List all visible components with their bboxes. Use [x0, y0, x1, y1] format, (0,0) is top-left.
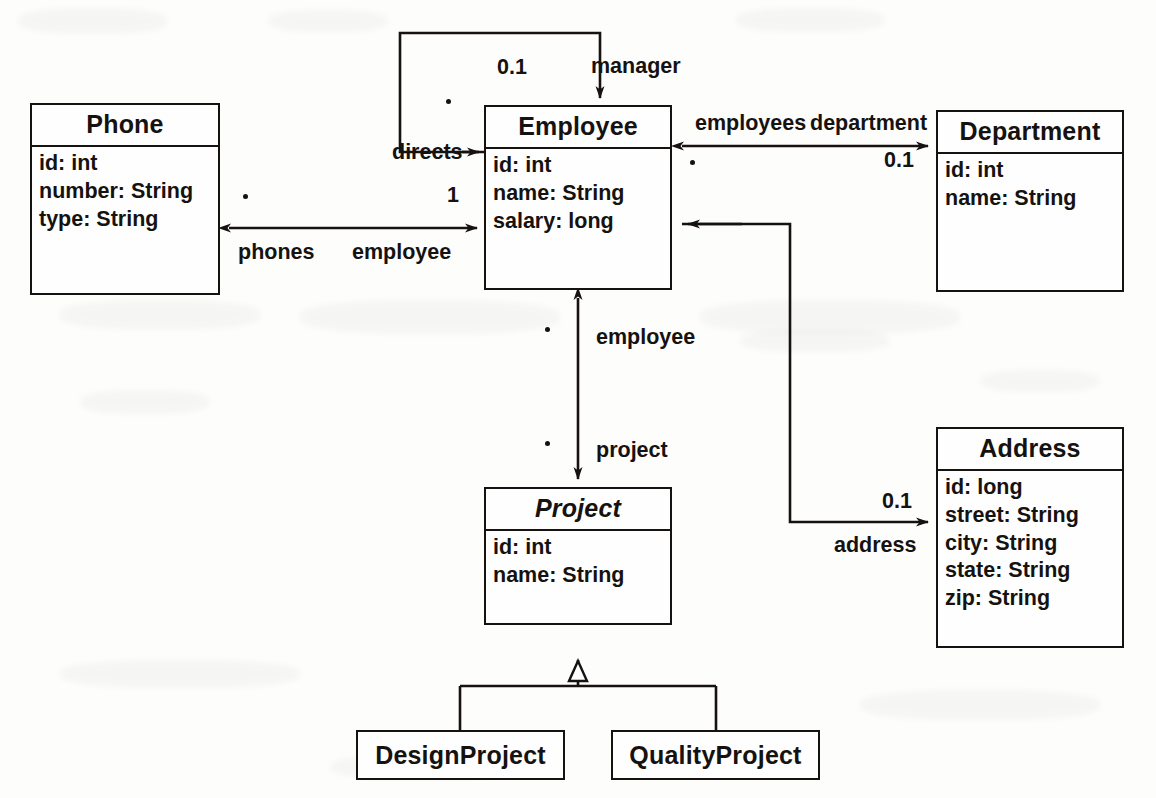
attribute: street: String: [945, 502, 1122, 530]
class-name-address: Address: [938, 429, 1122, 469]
attribute: id: long: [945, 474, 1122, 502]
class-box-address[interactable]: Address id: long street: String city: St…: [936, 427, 1124, 648]
attribute: number: String: [39, 178, 218, 206]
attribute: name: String: [493, 562, 670, 590]
class-name-phone: Phone: [32, 105, 218, 145]
class-box-design-project[interactable]: DesignProject: [356, 730, 565, 780]
attribute: id: int: [39, 150, 218, 178]
multiplicity-manager: 0.1: [497, 55, 527, 80]
class-name-project: Project: [486, 489, 670, 529]
role-label-department: department: [810, 111, 927, 136]
role-label-address: address: [834, 533, 916, 558]
attribute: zip: String: [945, 585, 1122, 613]
class-box-department[interactable]: Department id: int name: String: [936, 110, 1124, 292]
multiplicity-employee-one: 1: [447, 183, 459, 208]
role-label-project: project: [596, 438, 668, 463]
attribute: salary: long: [493, 208, 670, 236]
attribute: id: int: [945, 157, 1122, 185]
class-box-quality-project[interactable]: QualityProject: [611, 730, 820, 780]
role-label-employees: employees: [695, 111, 806, 136]
role-label-manager: manager: [591, 54, 681, 79]
class-attributes-address: id: long street: String city: String sta…: [938, 471, 1122, 613]
class-box-phone[interactable]: Phone id: int number: String type: Strin…: [30, 103, 220, 295]
attribute: id: int: [493, 152, 670, 180]
multiplicity-many-employees: [690, 160, 695, 165]
role-label-directs: directs: [392, 140, 463, 165]
attribute: name: String: [493, 180, 670, 208]
uml-class-diagram: Phone id: int number: String type: Strin…: [0, 0, 1156, 798]
class-name-department: Department: [938, 112, 1122, 152]
multiplicity-many-phones: [243, 194, 248, 199]
attribute: id: int: [493, 534, 670, 562]
class-attributes-employee: id: int name: String salary: long: [486, 149, 670, 235]
multiplicity-address: 0.1: [882, 489, 912, 514]
attribute: city: String: [945, 530, 1122, 558]
class-box-employee[interactable]: Employee id: int name: String salary: lo…: [484, 105, 672, 290]
class-box-project[interactable]: Project id: int name: String: [484, 487, 672, 625]
class-name-employee: Employee: [486, 107, 670, 147]
role-label-employee-project-side: employee: [596, 325, 695, 350]
class-attributes-phone: id: int number: String type: String: [32, 147, 218, 233]
role-label-phones: phones: [238, 240, 314, 265]
attribute: name: String: [945, 185, 1122, 213]
assoc-employee-address: [682, 224, 928, 522]
class-name-quality-project: QualityProject: [629, 741, 801, 770]
attribute: state: String: [945, 557, 1122, 585]
class-attributes-project: id: int name: String: [486, 531, 670, 590]
role-label-employee-phone-side: employee: [352, 240, 451, 265]
class-name-design-project: DesignProject: [375, 741, 546, 770]
multiplicity-many-directs: [446, 99, 451, 104]
class-attributes-department: id: int name: String: [938, 154, 1122, 213]
multiplicity-many-employee-project: [545, 327, 550, 332]
multiplicity-many-project: [545, 441, 550, 446]
attribute: type: String: [39, 206, 218, 234]
multiplicity-department: 0.1: [884, 148, 914, 173]
